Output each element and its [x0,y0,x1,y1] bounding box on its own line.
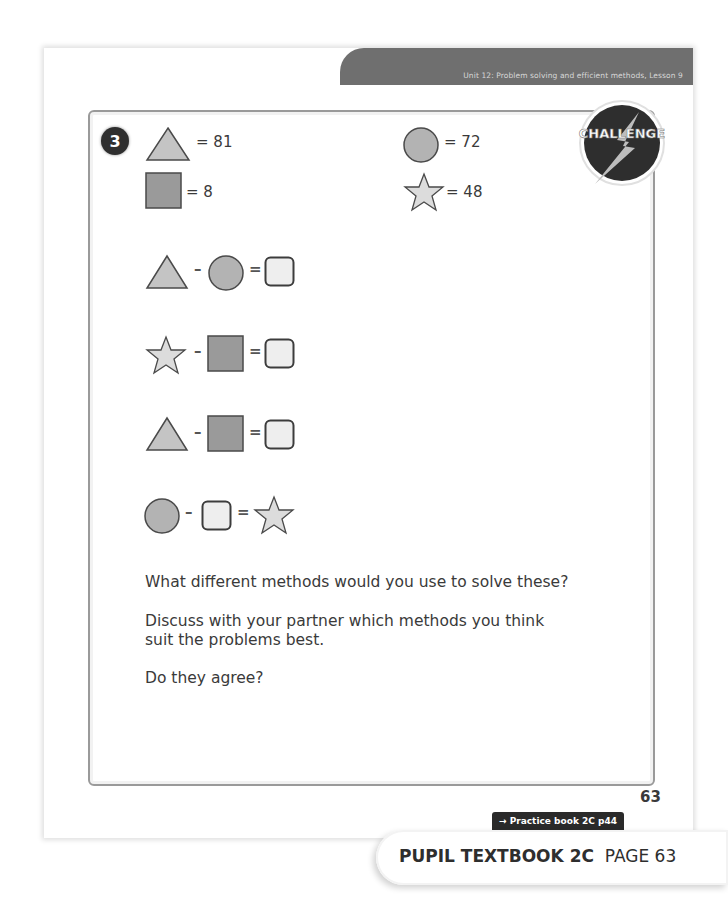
question-number: 3 [101,127,129,155]
circle-icon [402,126,440,164]
book-footer-label: PUPIL TEXTBOOK 2C PAGE 63 [399,846,676,866]
page-number: 63 [640,788,661,806]
prompt-methods: What different methods would you use to … [145,573,568,592]
challenge-badge-label: CHALLENGE [579,126,665,141]
square-icon [145,172,183,210]
eq3-equals: = [249,423,262,441]
eq1-answer-box[interactable] [264,256,296,288]
book-page: PAGE 63 [605,846,676,866]
eq3-square-icon [207,415,245,453]
eq2-square-icon [207,335,245,373]
practice-book-link[interactable]: → Practice book 2C p44 [492,812,624,830]
eq4-minus: – [185,503,193,521]
prompt-discuss-line2: suit the problems best. [145,631,324,650]
unit-header-band: Unit 12: Problem solving and efficient m… [340,48,693,85]
triangle-value: = 81 [196,133,232,151]
circle-value: = 72 [444,133,480,151]
triangle-icon [145,126,191,162]
eq3-answer-box[interactable] [264,419,296,451]
challenge-badge-icon: CHALLENGE [577,98,667,188]
eq3-triangle-icon [145,416,189,452]
prompt-discuss-line1: Discuss with your partner which methods … [145,612,544,631]
eq1-triangle-icon [145,254,189,290]
eq4-circle-icon [143,497,181,535]
eq1-minus: – [194,260,202,278]
eq4-equals: = [237,503,250,521]
book-title: PUPIL TEXTBOOK 2C [399,846,594,866]
book-footer-tab: PUPIL TEXTBOOK 2C PAGE 63 [376,830,728,885]
eq2-star-icon [144,335,188,375]
eq3-minus: – [194,423,202,441]
eq1-equals: = [249,260,262,278]
eq2-minus: – [194,342,202,360]
star-value: = 48 [446,183,482,201]
unit-title: Unit 12: Problem solving and efficient m… [463,71,683,80]
star-icon [403,172,445,212]
square-value: = 8 [186,183,213,201]
eq2-equals: = [249,342,262,360]
eq1-circle-icon [207,254,245,292]
eq4-star-icon [252,495,296,535]
prompt-agree: Do they agree? [145,669,264,688]
eq2-answer-box[interactable] [264,338,296,370]
eq4-answer-box[interactable] [201,500,233,532]
